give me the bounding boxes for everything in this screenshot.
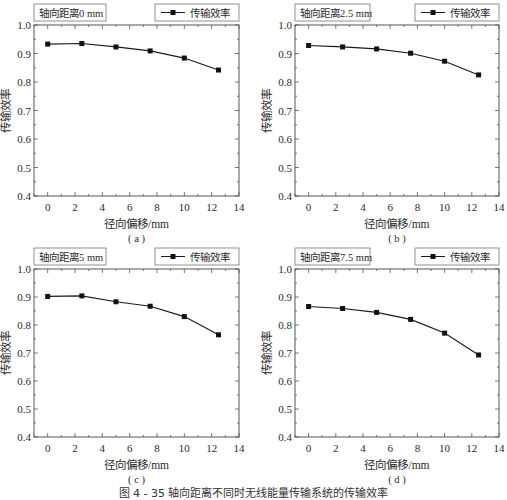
y-tick-label: 0.6 [278, 133, 292, 145]
annotation-box: 轴向距离5 mm [34, 248, 106, 265]
x-tick-label: 2 [72, 201, 78, 213]
y-tick-label: 1.0 [278, 263, 292, 275]
x-tick-label: 0 [306, 201, 312, 213]
x-tick-label: 14 [494, 442, 506, 454]
chart-panel-a: 024681012140.40.50.60.70.80.91.0径向偏移/mm传… [0, 4, 245, 245]
x-tick-label: 0 [45, 201, 51, 213]
y-tick-label: 0.5 [17, 162, 31, 174]
x-tick-label: 12 [206, 442, 217, 454]
y-tick-label: 0.7 [17, 105, 31, 117]
y-tick-label: 0.4 [17, 190, 31, 202]
figure-caption: 图 4 - 35 轴向距离不同时无线能量传输系统的传输效率 [0, 484, 507, 500]
data-point-marker [216, 332, 221, 337]
y-axis-label: 传输效率 [0, 89, 12, 133]
series-line [48, 44, 219, 71]
y-tick-label: 0.7 [17, 347, 31, 359]
data-point-marker [306, 43, 311, 48]
x-tick-label: 4 [360, 442, 366, 454]
data-point-marker [182, 56, 187, 61]
x-tick-label: 10 [439, 201, 451, 213]
panel-label: ( b ) [388, 233, 406, 245]
x-tick-label: 6 [127, 201, 133, 213]
y-tick-label: 0.8 [17, 76, 31, 88]
y-tick-label: 0.8 [278, 319, 292, 331]
data-point-marker [182, 314, 187, 319]
svg-text:传输效率: 传输效率 [450, 251, 490, 263]
data-point-marker [408, 51, 413, 56]
data-point-marker [408, 317, 413, 322]
x-tick-label: 0 [45, 442, 51, 454]
data-point-marker [476, 72, 481, 77]
data-point-marker [148, 48, 153, 53]
data-point-marker [45, 294, 50, 299]
data-point-marker [114, 299, 119, 304]
data-point-marker [114, 44, 119, 49]
x-tick-label: 8 [154, 442, 160, 454]
y-tick-label: 0.5 [17, 403, 31, 415]
x-tick-label: 8 [415, 442, 421, 454]
x-tick-label: 4 [100, 201, 106, 213]
x-tick-label: 8 [415, 201, 421, 213]
y-tick-label: 0.6 [278, 375, 292, 387]
y-tick-label: 0.8 [17, 319, 31, 331]
data-point-marker [79, 293, 84, 298]
y-tick-label: 0.7 [278, 347, 292, 359]
plot-frame [34, 25, 239, 196]
data-point-marker [216, 68, 221, 73]
x-tick-label: 2 [72, 442, 78, 454]
y-tick-label: 0.9 [278, 48, 292, 60]
x-tick-label: 8 [154, 201, 160, 213]
legend: 传输效率 [415, 4, 499, 21]
x-tick-label: 6 [387, 201, 393, 213]
legend-marker-icon [431, 10, 436, 15]
chart-panel-c: 024681012140.40.50.60.70.80.91.0径向偏移/mm传… [0, 248, 245, 486]
y-tick-label: 0.9 [278, 291, 292, 303]
y-tick-label: 0.8 [278, 76, 292, 88]
svg-text:轴向距离2.5 mm: 轴向距离2.5 mm [300, 7, 372, 19]
y-tick-label: 0.5 [278, 162, 292, 174]
x-tick-label: 6 [127, 442, 133, 454]
series-line [48, 296, 219, 335]
legend: 传输效率 [155, 4, 239, 21]
legend: 传输效率 [415, 248, 499, 265]
y-tick-label: 0.5 [278, 403, 292, 415]
data-point-marker [374, 46, 379, 51]
data-point-marker [79, 41, 84, 46]
legend-marker-icon [431, 254, 436, 259]
x-tick-label: 12 [206, 201, 217, 213]
x-tick-label: 10 [179, 201, 191, 213]
y-tick-label: 1.0 [17, 263, 31, 275]
y-tick-label: 0.9 [17, 48, 31, 60]
plot-frame [34, 269, 239, 437]
data-point-marker [148, 304, 153, 309]
x-tick-label: 4 [360, 201, 366, 213]
y-tick-label: 0.4 [278, 431, 292, 443]
annotation-box: 轴向距离7.5 mm [295, 248, 372, 265]
x-tick-label: 12 [466, 442, 477, 454]
svg-text:传输效率: 传输效率 [190, 251, 230, 263]
chart-panel-b: 024681012140.40.50.60.70.80.91.0径向偏移/mm传… [260, 4, 505, 245]
y-axis-label: 传输效率 [0, 331, 12, 375]
x-tick-label: 2 [333, 442, 339, 454]
x-tick-label: 14 [234, 442, 246, 454]
legend: 传输效率 [155, 248, 239, 265]
y-tick-label: 0.6 [17, 375, 31, 387]
x-tick-label: 4 [100, 442, 106, 454]
data-point-marker [340, 44, 345, 49]
x-axis-label: 径向偏移/mm [364, 458, 429, 471]
y-tick-label: 0.4 [17, 431, 31, 443]
legend-marker-icon [171, 254, 176, 259]
svg-text:传输效率: 传输效率 [450, 7, 490, 19]
x-axis-label: 径向偏移/mm [104, 217, 169, 230]
data-point-marker [476, 352, 481, 357]
x-axis-label: 径向偏移/mm [364, 217, 429, 230]
y-axis-label: 传输效率 [260, 89, 273, 133]
data-point-marker [306, 304, 311, 309]
chart-panel-d: 024681012140.40.50.60.70.80.91.0径向偏移/mm传… [260, 248, 505, 486]
x-tick-label: 12 [466, 201, 477, 213]
y-tick-label: 0.9 [17, 291, 31, 303]
x-tick-label: 10 [179, 442, 191, 454]
data-point-marker [374, 310, 379, 315]
x-tick-label: 0 [306, 442, 312, 454]
plot-frame [295, 25, 499, 196]
